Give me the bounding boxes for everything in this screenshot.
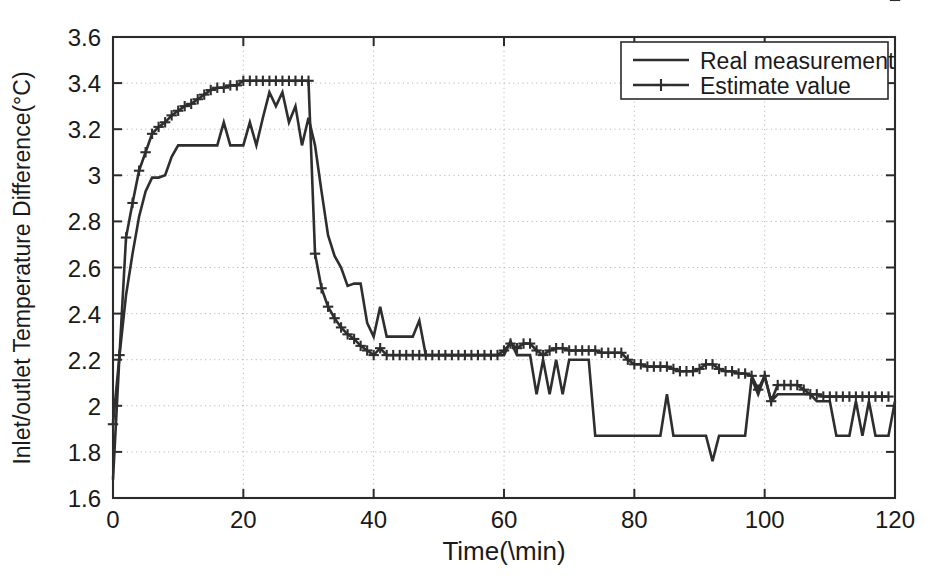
y-tick-label: 3.4 xyxy=(68,70,101,97)
y-tick-label: 3.6 xyxy=(68,24,101,51)
line-chart: 020406080100120 1.61.822.22.42.62.833.23… xyxy=(0,0,946,582)
y-tick-label: 2.8 xyxy=(68,208,101,235)
y-tick-label: 2.4 xyxy=(68,301,101,328)
chart-legend: Real measurement Estimate value xyxy=(621,42,895,99)
x-tick-label: 60 xyxy=(491,506,518,533)
x-tick-label: 80 xyxy=(621,506,648,533)
y-tick-label: 1.8 xyxy=(68,439,101,466)
x-tick-label: 0 xyxy=(106,506,119,533)
x-tick-label: 20 xyxy=(230,506,257,533)
y-tick-label: 3.2 xyxy=(68,116,101,143)
y-tick-label: 2.6 xyxy=(68,255,101,282)
legend-label-real-measurement: Real measurement xyxy=(700,48,895,74)
y-axis-label: Inlet/outlet Temperature Difference(°C) xyxy=(9,71,35,464)
x-tick-label: 40 xyxy=(360,506,387,533)
y-tick-label: 3 xyxy=(88,162,101,189)
x-tick-label: 120 xyxy=(875,506,915,533)
y-tick-label: 2 xyxy=(88,393,101,420)
y-tick-label: 1.6 xyxy=(68,485,101,512)
x-axis-label: Time(\min) xyxy=(442,536,565,566)
x-tick-label: 100 xyxy=(745,506,785,533)
legend-label-estimate-value: Estimate value xyxy=(700,73,851,99)
y-tick-label: 2.2 xyxy=(68,347,101,374)
chart-figure: 020406080100120 1.61.822.22.42.62.833.23… xyxy=(0,0,946,582)
